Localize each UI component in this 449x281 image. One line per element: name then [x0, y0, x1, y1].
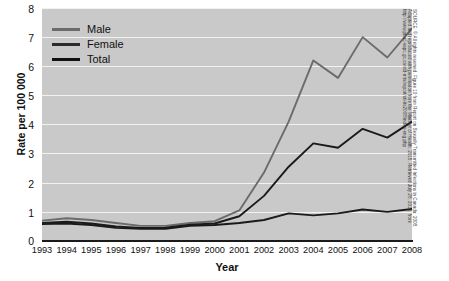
x-axis-line [42, 240, 413, 242]
chart-legend: Male Female Total [52, 22, 124, 67]
y-tick-7: 7 [0, 33, 34, 43]
y-tick-2: 2 [0, 179, 34, 189]
x-tick-2008: 2008 [397, 245, 427, 255]
legend-item-total: Total [52, 52, 124, 67]
source-attribution: SOURCE: © All rights reserved. Figure 10… [405, 9, 417, 241]
legend-item-female: Female [52, 37, 124, 52]
legend-swatch-male [52, 28, 80, 31]
legend-label-male: Male [87, 24, 111, 35]
legend-label-total: Total [87, 54, 110, 65]
legend-item-male: Male [52, 22, 124, 37]
y-tick-8: 8 [0, 4, 34, 14]
legend-label-female: Female [87, 39, 124, 50]
series-line-total [42, 122, 412, 228]
legend-swatch-total [52, 58, 80, 61]
chart-figure: 8 7 6 5 4 3 2 1 0 Rate per 100 000 Male … [0, 0, 449, 281]
y-axis-label: Rate per 100 000 [15, 49, 27, 179]
legend-swatch-female [52, 43, 80, 46]
y-tick-1: 1 [0, 208, 34, 218]
x-axis-label: Year [42, 261, 412, 273]
series-line-female [42, 209, 412, 229]
